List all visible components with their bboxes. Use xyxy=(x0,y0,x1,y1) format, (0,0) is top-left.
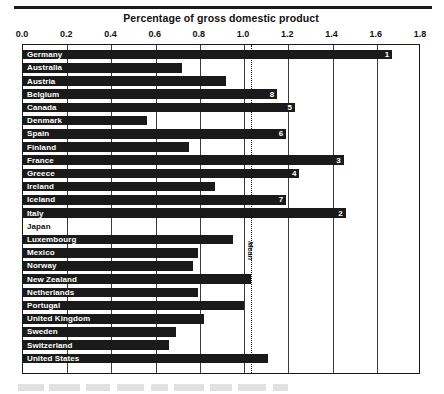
chart-title: Percentage of gross domestic product xyxy=(22,12,420,24)
rank-label: 3 xyxy=(336,155,343,165)
bar-row: Belgium8 xyxy=(23,89,419,99)
bar-row: Ireland xyxy=(23,182,419,192)
chart-figure: Percentage of gross domestic product 0.0… xyxy=(0,0,444,394)
country-label: Germany xyxy=(27,50,62,60)
country-label: United Kingdom xyxy=(27,314,90,324)
country-label: Austria xyxy=(27,76,55,86)
x-tick-label: 0.4 xyxy=(104,29,117,39)
bars-layer: Germany1AustraliaAustriaBelgium8Canada5D… xyxy=(23,45,419,373)
bar-row: Luxembourg xyxy=(23,235,419,245)
mean-line xyxy=(251,45,252,373)
x-tick-label: 0.8 xyxy=(193,29,206,39)
country-label: Canada xyxy=(27,103,57,113)
country-label: Iceland xyxy=(27,195,55,205)
bar-row: Australia xyxy=(23,63,419,73)
country-label: Mexico xyxy=(27,248,55,258)
bar-row: Germany1 xyxy=(23,50,419,60)
bar-row: Italy2 xyxy=(23,208,419,218)
rank-label: 2 xyxy=(338,208,345,218)
country-label: Finland xyxy=(27,142,56,152)
x-tick-label: 1.6 xyxy=(370,29,383,39)
bar-row: Denmark xyxy=(23,116,419,126)
country-label: Spain xyxy=(27,129,49,139)
x-tick-label: 1.0 xyxy=(237,29,250,39)
bar-row: Netherlands xyxy=(23,288,419,298)
x-tick-label: 1.2 xyxy=(281,29,294,39)
bar-row: Norway xyxy=(23,261,419,271)
bar-row: France3 xyxy=(23,155,419,165)
rank-label: 4 xyxy=(292,169,299,179)
bar xyxy=(23,103,295,113)
bar xyxy=(23,155,344,165)
bar xyxy=(23,89,277,99)
bar xyxy=(23,169,299,179)
country-label: Norway xyxy=(27,261,57,271)
bar-row: Japan xyxy=(23,222,419,232)
bar-row: New Zealand xyxy=(23,274,419,284)
country-label: Greece xyxy=(27,169,55,179)
bar-row: Canada5 xyxy=(23,103,419,113)
country-label: Switzerland xyxy=(27,340,73,350)
x-tick-label: 0.6 xyxy=(148,29,161,39)
x-tick-label: 0.2 xyxy=(60,29,73,39)
x-axis-tick-labels: 0.00.20.40.60.81.01.21.41.61.8 xyxy=(0,29,444,43)
rank-label: 7 xyxy=(279,195,286,205)
country-label: France xyxy=(27,155,54,165)
rank-label: 1 xyxy=(385,50,392,60)
bar-row: United States xyxy=(23,354,419,364)
bar-row: Mexico xyxy=(23,248,419,258)
country-label: Denmark xyxy=(27,116,62,126)
country-label: United States xyxy=(27,354,79,364)
bar-row: United Kingdom xyxy=(23,314,419,324)
x-tick-label: 0.0 xyxy=(16,29,29,39)
header-rule xyxy=(14,6,432,9)
country-label: Ireland xyxy=(27,182,54,192)
country-label: Japan xyxy=(27,222,51,232)
country-label: Sweden xyxy=(27,327,58,337)
x-tick-label: 1.8 xyxy=(414,29,427,39)
footer-caption-fragment xyxy=(18,384,288,391)
country-label: Netherlands xyxy=(27,288,74,298)
country-label: New Zealand xyxy=(27,274,77,284)
country-label: Portugal xyxy=(27,301,60,311)
bar-row: Finland xyxy=(23,142,419,152)
country-label: Italy xyxy=(27,208,44,218)
bar xyxy=(23,129,286,139)
rank-label: 6 xyxy=(279,129,286,139)
bar-row: Iceland7 xyxy=(23,195,419,205)
bar-row: Austria xyxy=(23,76,419,86)
plot-area: Mean Germany1AustraliaAustriaBelgium8Can… xyxy=(22,44,420,374)
x-tick-label: 1.4 xyxy=(325,29,338,39)
bar-row: Spain6 xyxy=(23,129,419,139)
bar-row: Switzerland xyxy=(23,340,419,350)
country-label: Luxembourg xyxy=(27,235,76,245)
bar-row: Portugal xyxy=(23,301,419,311)
rank-label: 8 xyxy=(270,89,277,99)
bar xyxy=(23,195,286,205)
country-label: Belgium xyxy=(27,89,59,99)
bar xyxy=(23,208,346,218)
mean-label: Mean xyxy=(246,241,255,260)
bar-row: Greece4 xyxy=(23,169,419,179)
rank-label: 5 xyxy=(288,103,295,113)
bar-row: Sweden xyxy=(23,327,419,337)
country-label: Australia xyxy=(27,63,62,73)
bar xyxy=(23,50,392,60)
